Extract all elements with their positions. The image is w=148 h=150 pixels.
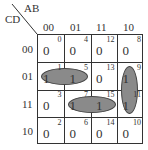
cell-value: 1 [123,72,130,85]
minterm-index: 4 [84,36,88,44]
cell-value: 0 [43,99,50,112]
row-header-01: 01 [22,71,33,82]
row-header-10: 10 [22,126,33,137]
minterm-index: 13 [107,64,115,72]
kmap-cell: 0 8 [118,35,145,63]
kmap-cell: 0 0 [38,35,65,63]
row-variable-label: CD [5,14,20,25]
cell-value: 1 [123,99,130,112]
cell-value: 0 [123,127,130,140]
cell-value: 1 [43,72,50,85]
minterm-index: 12 [107,36,115,44]
minterm-index: 7 [84,91,88,99]
row-header-11: 11 [22,99,33,110]
kmap-cell: 0 6 [65,118,92,146]
minterm-index: 5 [84,64,88,72]
kmap-cell: 1 9 [118,63,145,91]
kmap-grid: 0 0 0 4 0 12 0 8 1 1 1 5 0 13 1 9 0 3 1 … [37,34,143,144]
col-header-01: 01 [70,22,81,33]
kmap-cell: 1 5 [65,63,92,91]
cell-value: 0 [123,44,130,57]
kmap-cell: 0 3 [38,90,65,118]
kmap-cell: 0 2 [38,118,65,146]
kmap-cell: 1 11 [118,90,145,118]
kmap-cell: 0 12 [91,35,118,63]
kmap-cell: 0 10 [118,118,145,146]
kmap-cell: 1 7 [65,90,92,118]
col-header-10: 10 [123,22,134,33]
col-header-11: 11 [96,22,107,33]
cell-value: 0 [96,44,103,57]
row-header-00: 00 [22,44,33,55]
minterm-index: 0 [58,36,62,44]
minterm-index: 2 [58,119,62,127]
col-header-00: 00 [43,22,54,33]
minterm-index: 15 [107,91,115,99]
cell-value: 1 [70,99,77,112]
cell-value: 0 [96,127,103,140]
cell-value: 0 [43,44,50,57]
minterm-index: 10 [133,119,141,127]
cell-value: 0 [70,44,77,57]
minterm-index: 14 [107,119,115,127]
cell-value: 0 [70,127,77,140]
minterm-index: 9 [137,64,141,72]
kmap-cell: 1 1 [38,63,65,91]
minterm-index: 8 [137,36,141,44]
kmap-cell: 1 15 [91,90,118,118]
minterm-index: 3 [58,91,62,99]
kmap-cell: 0 13 [91,63,118,91]
cell-value: 0 [96,72,103,85]
minterm-index: 6 [84,119,88,127]
kmap-cell: 0 14 [91,118,118,146]
col-variable-label: AB [24,3,39,14]
minterm-index: 1 [58,64,62,72]
cell-value: 1 [70,72,77,85]
cell-value: 1 [96,99,103,112]
minterm-index: 11 [133,91,141,99]
cell-value: 0 [43,127,50,140]
kmap-cell: 0 4 [65,35,92,63]
